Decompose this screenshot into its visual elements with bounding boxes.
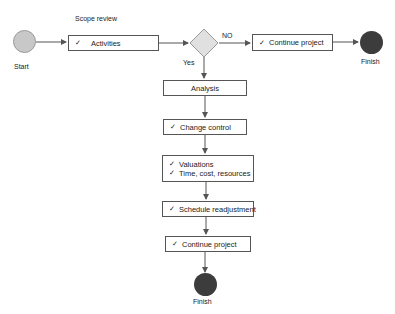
start-node [13, 30, 36, 53]
finish-node-top [360, 31, 383, 54]
valuations-box: ✓ Valuations ✓ Time, cost, resources [162, 155, 254, 182]
activities-text: Activities [91, 39, 121, 48]
change-control-box: ✓ Change control [163, 119, 247, 135]
check-icon: ✓ [169, 169, 175, 177]
scope-review-label: Scope review [75, 15, 117, 22]
change-control-text: Change control [180, 123, 231, 132]
time-cost-resources-text: Time, cost, resources [179, 169, 250, 178]
check-icon: ✓ [172, 240, 178, 248]
check-icon: ✓ [169, 160, 175, 168]
schedule-readjustment-box: ✓ Schedule readjustment [162, 201, 254, 217]
check-icon: ✓ [75, 39, 81, 47]
analysis-box: Analysis [163, 80, 247, 96]
continue-project-box-top: ✓ Continue project [252, 34, 333, 51]
continue-project-text: Continue project [182, 240, 237, 249]
start-label: Start [14, 63, 29, 70]
decision-yes-label: Yes [183, 59, 194, 66]
finish-label-top: Finish [361, 58, 380, 65]
finish-node-bottom [194, 273, 217, 296]
continue-project-box-bottom: ✓ Continue project [165, 236, 251, 252]
decision-diamond [190, 29, 218, 57]
activities-box: ✓ Activities [68, 35, 159, 51]
analysis-text: Analysis [191, 84, 219, 93]
valuations-text: Valuations [179, 160, 213, 169]
check-icon: ✓ [170, 123, 176, 131]
continue-project-text: Continue project [269, 38, 324, 47]
schedule-readjustment-text: Schedule readjustment [179, 205, 256, 214]
check-icon: ✓ [169, 205, 175, 213]
finish-label-bottom: Finish [193, 298, 212, 305]
decision-no-label: NO [222, 32, 233, 39]
check-icon: ✓ [259, 39, 265, 47]
